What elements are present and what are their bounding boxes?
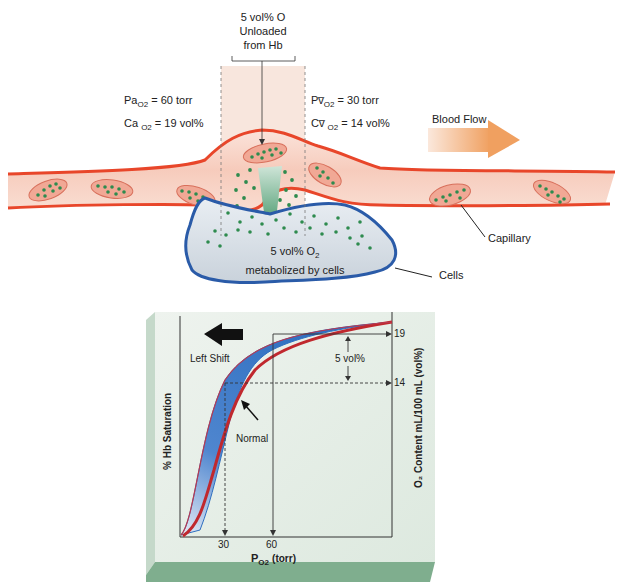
five-vol-label: 5 vol% xyxy=(335,354,365,364)
left-shift-label: Left Shift xyxy=(190,354,229,364)
unloaded-label: 5 vol% O Unloaded from Hb xyxy=(225,10,301,52)
tick-19: 19 xyxy=(394,329,405,339)
pvo2-label: Pv̅O2 = 30 torr xyxy=(311,95,379,109)
unloaded-bracket xyxy=(232,56,295,61)
unloaded-line-2: Unloaded xyxy=(225,24,301,38)
pao2-label: PaO2 = 60 torr xyxy=(124,95,192,109)
oxyhemoglobin-dissociation-chart xyxy=(0,292,623,582)
unloaded-line-1: 5 vol% O xyxy=(225,10,301,24)
x-axis-label: PO2 (torr) xyxy=(251,553,296,567)
y-axis-left-label: % Hb Saturation xyxy=(162,393,173,470)
cvo2-label: Cv̅ O2 = 14 vol% xyxy=(311,118,390,132)
blood-flow-label: Blood Flow xyxy=(432,114,486,125)
cells-label: Cells xyxy=(439,270,463,281)
blood-flow-arrow xyxy=(428,120,520,158)
tick-30: 30 xyxy=(218,540,229,550)
y-axis-right-label: O₂ Content mL/100 mL (vol%) xyxy=(413,348,424,488)
cell-metabolized-label: 5 vol% O2 metabolized by cells xyxy=(230,244,360,277)
unloaded-line-3: from Hb xyxy=(225,38,301,52)
tick-14: 14 xyxy=(394,378,405,388)
tick-60: 60 xyxy=(266,540,277,550)
cao2-label: Ca O2 = 19 vol% xyxy=(124,118,203,132)
capillary-label: Capillary xyxy=(488,233,531,244)
panel-left-side xyxy=(146,312,155,575)
normal-label: Normal xyxy=(236,434,268,444)
